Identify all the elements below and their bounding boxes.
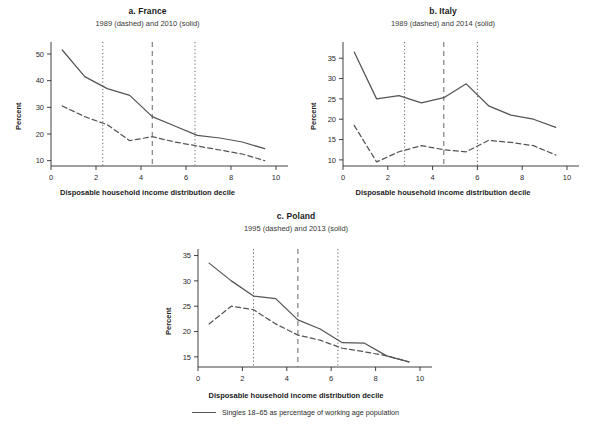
svg-text:10: 10 bbox=[563, 173, 571, 180]
legend-label: Singles 18–65 as percentage of working a… bbox=[222, 408, 399, 417]
panel-france: a. France 1989 (dashed) and 2010 (solid)… bbox=[0, 0, 295, 205]
svg-text:20: 20 bbox=[328, 115, 336, 124]
svg-text:4: 4 bbox=[139, 173, 143, 180]
svg-text:2: 2 bbox=[94, 173, 98, 180]
svg-text:6: 6 bbox=[184, 173, 188, 180]
svg-text:10: 10 bbox=[36, 156, 44, 165]
svg-text:15: 15 bbox=[183, 353, 191, 362]
svg-text:20: 20 bbox=[36, 130, 44, 139]
svg-text:20: 20 bbox=[183, 327, 191, 336]
x-axis-label-france: Disposable household income distribution… bbox=[0, 188, 295, 197]
svg-text:6: 6 bbox=[475, 173, 479, 180]
svg-text:8: 8 bbox=[520, 173, 524, 180]
svg-text:25: 25 bbox=[328, 95, 336, 104]
panel-italy: b. Italy 1989 (dashed) and 2014 (solid) … bbox=[295, 0, 591, 205]
svg-text:35: 35 bbox=[183, 251, 191, 260]
figure-legend: Singles 18–65 as percentage of working a… bbox=[0, 402, 591, 422]
x-axis-label-italy: Disposable household income distribution… bbox=[295, 188, 591, 197]
svg-text:50: 50 bbox=[36, 50, 44, 59]
svg-text:0: 0 bbox=[196, 374, 200, 383]
svg-text:10: 10 bbox=[328, 156, 336, 165]
svg-text:10: 10 bbox=[416, 374, 424, 383]
svg-text:15: 15 bbox=[328, 135, 336, 144]
svg-text:30: 30 bbox=[183, 277, 191, 286]
svg-text:0: 0 bbox=[341, 173, 345, 180]
plot-area-poland: 15202530350246810 bbox=[148, 205, 444, 385]
legend-solid-line-icon bbox=[192, 412, 216, 413]
svg-text:4: 4 bbox=[431, 173, 435, 180]
x-axis-label-poland: Disposable household income distribution… bbox=[148, 391, 444, 400]
svg-text:35: 35 bbox=[328, 54, 336, 63]
plot-area-italy: 1015202530350246810 bbox=[295, 0, 591, 180]
svg-text:30: 30 bbox=[328, 74, 336, 83]
svg-text:2: 2 bbox=[240, 374, 244, 383]
svg-text:25: 25 bbox=[183, 302, 191, 311]
plot-area-france: 10203040500246810 bbox=[0, 0, 295, 180]
svg-text:8: 8 bbox=[374, 374, 378, 383]
svg-text:2: 2 bbox=[386, 173, 390, 180]
svg-text:10: 10 bbox=[272, 173, 280, 180]
svg-text:40: 40 bbox=[36, 76, 44, 85]
svg-text:30: 30 bbox=[36, 103, 44, 112]
panel-poland: c. Poland 1995 (dashed) and 2013 (solid)… bbox=[148, 205, 444, 400]
svg-text:6: 6 bbox=[329, 374, 333, 383]
svg-text:4: 4 bbox=[285, 374, 289, 383]
svg-text:8: 8 bbox=[229, 173, 233, 180]
svg-text:0: 0 bbox=[49, 173, 53, 180]
